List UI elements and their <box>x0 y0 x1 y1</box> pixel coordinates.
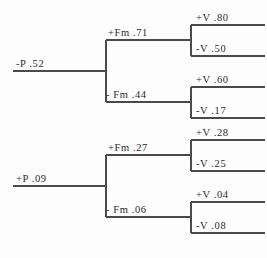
lower-leaf-2-label: +V .04 <box>196 190 229 201</box>
lower-leaf-1-label: -V .25 <box>196 159 226 170</box>
upper-internal-0-label: +Fm .71 <box>108 28 148 39</box>
upper-leaf-3-label: -V .17 <box>196 106 226 117</box>
upper-root-label: -P .52 <box>16 59 44 70</box>
upper-leaf-2-label: +V .60 <box>196 75 229 86</box>
upper-leaf-0-label: +V .80 <box>196 13 229 24</box>
lower-internal-0-label: +Fm .27 <box>108 143 148 154</box>
lower-root-label: +P .09 <box>16 174 47 185</box>
lower-leaf-3-label: -V .08 <box>196 221 226 232</box>
upper-internal-1-label: - Fm .44 <box>106 90 147 101</box>
lower-internal-1-label: - Fm .06 <box>106 205 147 216</box>
upper-leaf-1-label: -V .50 <box>196 44 226 55</box>
diagram-canvas: -P .52 +Fm .71 - Fm .44 +V .80 -V .50 +V… <box>0 0 267 258</box>
lower-leaf-0-label: +V .28 <box>196 128 229 139</box>
